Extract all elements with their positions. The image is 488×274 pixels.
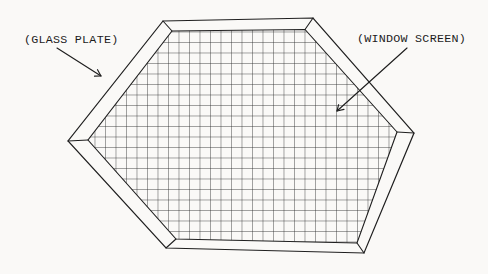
window-screen-label: (WINDOW SCREEN) [357, 32, 466, 46]
glass-plate-label: (GLASS PLATE) [24, 33, 118, 47]
glass-plate-leader-arrow [57, 48, 101, 76]
scanned-diagram-page: (GLASS PLATE) (WINDOW SCREEN) [0, 0, 488, 274]
hexagonal-plate-diagram: (GLASS PLATE) (WINDOW SCREEN) [0, 0, 488, 274]
